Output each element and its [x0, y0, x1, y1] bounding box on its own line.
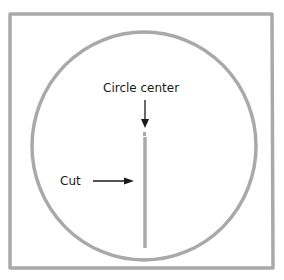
cut-label: Cut — [60, 174, 81, 188]
cut-circle-diagram: Circle center Cut — [0, 0, 284, 280]
outer-square — [10, 14, 273, 268]
center-arrow — [141, 100, 149, 128]
circle-center-label: Circle center — [103, 81, 179, 95]
cut-arrow — [93, 178, 134, 185]
circle-center-dot — [143, 132, 146, 136]
